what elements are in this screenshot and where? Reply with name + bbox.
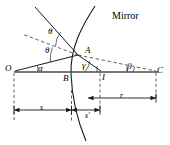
point-label-b: B (63, 74, 69, 83)
angle-arc-beta (133, 67, 135, 72)
point-label-i: I (102, 73, 105, 82)
angle-label-theta-upper: θ (48, 27, 52, 36)
angle-label-beta: β (127, 62, 131, 71)
angle-label-theta-lower: θ (45, 46, 49, 55)
incident-ray-o-to-a (15, 55, 78, 71)
mirror-arc (71, 6, 95, 141)
mirror-ray-diagram: Mirror O A B I C θ θ α γ β s s′ r (0, 0, 170, 145)
dimension-label-s: s (40, 104, 43, 112)
dimension-label-r: r (120, 92, 123, 100)
incident-ray-extension (35, 7, 78, 55)
angle-label-gamma: γ (82, 61, 86, 70)
angle-arc-theta-lower (50, 47, 52, 62)
point-label-a: A (85, 46, 91, 55)
point-label-c: C (157, 66, 163, 75)
angle-label-alpha: α (38, 64, 43, 73)
diagram-canvas (0, 0, 170, 145)
point-label-o: O (5, 64, 12, 73)
dimension-label-s-prime: s′ (85, 112, 90, 120)
mirror-label: Mirror (112, 11, 139, 21)
normal-line-extension (22, 34, 78, 55)
